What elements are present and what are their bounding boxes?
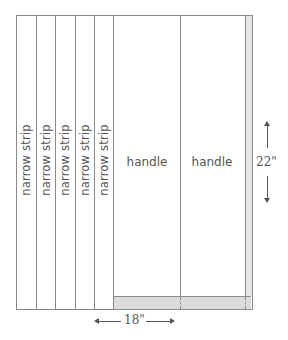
narrow-strip-label-2: narrow strip [39, 124, 53, 196]
cutting-diagram: narrow strip narrow strip narrow strip n… [0, 0, 288, 340]
strip-divider-3 [75, 15, 76, 309]
narrow-strip-label-3: narrow strip [58, 124, 72, 196]
width-dimension-line-right [146, 321, 172, 322]
right-trim-strip [245, 16, 252, 296]
handle-divider [180, 15, 181, 296]
narrow-strip-label-5: narrow strip [97, 124, 111, 196]
height-dimension-line-bottom [267, 176, 268, 200]
narrow-strip-label-1: narrow strip [19, 124, 33, 196]
arrow-right-icon [170, 318, 175, 324]
handle-label-1: handle [127, 155, 168, 169]
width-dimension-line-left [97, 321, 121, 322]
width-dimension-label: 18" [124, 313, 145, 327]
height-dimension-label: 22" [256, 155, 277, 169]
dashed-cut-mark-middle [180, 297, 181, 309]
bottom-trim-band [114, 296, 251, 309]
strip-divider-5 [113, 15, 114, 309]
arrow-down-icon [264, 198, 270, 203]
strip-divider-2 [55, 15, 56, 309]
dashed-cut-mark-right [245, 297, 246, 309]
handle-label-2: handle [192, 155, 233, 169]
strip-divider-4 [94, 15, 95, 309]
height-dimension-line-top [267, 124, 268, 148]
narrow-strip-label-4: narrow strip [78, 124, 92, 196]
strip-divider-1 [36, 15, 37, 309]
